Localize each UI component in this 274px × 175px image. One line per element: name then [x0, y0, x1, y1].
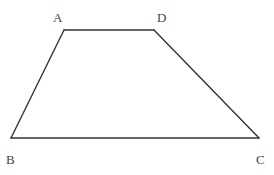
vertex-label-c: C: [256, 152, 265, 167]
vertex-label-b: B: [6, 152, 15, 167]
edge-dc: [154, 30, 259, 138]
edge-ba: [11, 30, 64, 138]
vertex-label-a: A: [53, 10, 63, 25]
vertex-label-d: D: [157, 10, 166, 25]
trapezoid-diagram: A D B C: [0, 0, 274, 175]
trapezoid-shape: [11, 30, 259, 138]
vertex-labels: A D B C: [6, 10, 265, 167]
